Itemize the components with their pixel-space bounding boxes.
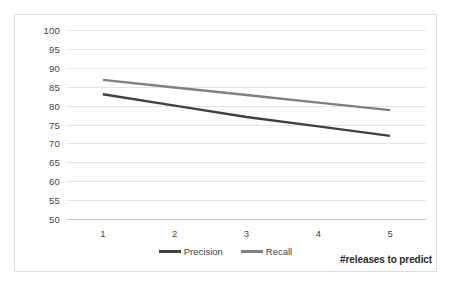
series-line-recall	[103, 80, 390, 110]
x-axis-tick-label: 4	[316, 228, 321, 239]
x-axis-tick-label: 3	[244, 228, 249, 239]
y-axis-tick-label: 100	[44, 25, 60, 36]
y-axis-tick-label: 65	[49, 157, 60, 168]
legend-line-marker-icon	[241, 250, 263, 253]
legend-item-precision[interactable]: Precision	[159, 246, 223, 257]
series-line-precision	[103, 94, 390, 136]
chart-legend: PrecisionRecall	[15, 246, 436, 257]
y-axis-tick-label: 70	[49, 138, 60, 149]
x-axis-tick-label: 2	[172, 228, 177, 239]
y-axis-tick-label: 95	[49, 43, 60, 54]
y-axis-tick-label: 50	[49, 214, 60, 225]
y-axis-tick-label: 75	[49, 119, 60, 130]
y-axis-tick-label: 55	[49, 195, 60, 206]
x-axis-tick-label: 1	[100, 228, 105, 239]
legend-line-marker-icon	[159, 250, 181, 253]
legend-label: Recall	[266, 246, 292, 257]
legend-label: Precision	[184, 246, 223, 257]
plot-area: 10095908580757065605550 12345	[67, 30, 426, 219]
chart-container: 10095908580757065605550 12345 #releases …	[14, 14, 437, 272]
gridline	[67, 219, 426, 220]
y-axis-tick-label: 60	[49, 176, 60, 187]
series-lines-group	[67, 30, 426, 219]
x-axis-tick-label: 5	[387, 228, 392, 239]
y-axis-tick-label: 80	[49, 100, 60, 111]
legend-item-recall[interactable]: Recall	[241, 246, 292, 257]
y-axis-tick-label: 90	[49, 62, 60, 73]
y-axis-tick-label: 85	[49, 81, 60, 92]
